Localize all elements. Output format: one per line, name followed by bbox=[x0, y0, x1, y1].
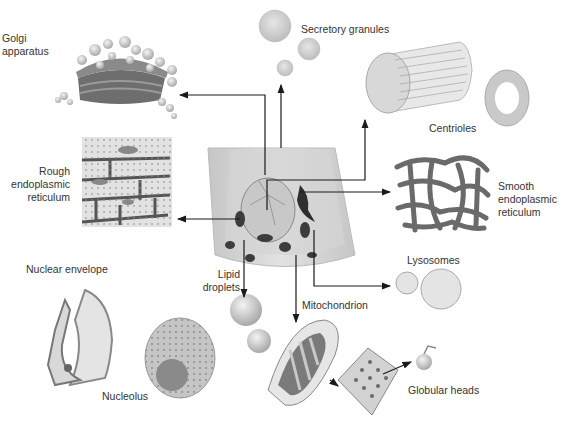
centrioles-label: Centrioles bbox=[429, 122, 476, 135]
centrioles-icon bbox=[366, 42, 529, 126]
rough-er-label: Rough endoplasmic reticulum bbox=[4, 165, 70, 204]
mitochondrion-icon bbox=[268, 320, 338, 405]
cell-organelle-diagram: Golgi apparatus Secretory granules Centr… bbox=[0, 0, 566, 427]
lipid-droplets-icon bbox=[230, 294, 271, 353]
nucleolus-icon bbox=[145, 318, 215, 398]
mitochondrion-label: Mitochondrion bbox=[302, 299, 368, 312]
nuclear-envelope-label: Nuclear envelope bbox=[26, 263, 108, 276]
nucleolus-label: Nucleolus bbox=[102, 390, 148, 403]
smooth-er-icon bbox=[397, 158, 488, 230]
golgi-apparatus-label: Golgi apparatus bbox=[2, 32, 60, 58]
cristae-fragment-icon bbox=[338, 348, 398, 415]
nuclear-envelope-icon bbox=[48, 290, 112, 385]
lysosomes-icon bbox=[396, 269, 461, 309]
secretory-granules-icon bbox=[259, 10, 320, 76]
globular-heads-label: Globular heads bbox=[408, 384, 479, 397]
smooth-er-label: Smooth endoplasmic reticulum bbox=[498, 180, 557, 219]
cell-body-icon bbox=[208, 148, 355, 267]
diagram-graphics bbox=[0, 0, 566, 427]
golgi-apparatus-icon bbox=[55, 36, 177, 119]
rough-er-icon bbox=[82, 137, 172, 227]
lysosomes-label: Lysosomes bbox=[407, 254, 460, 267]
globular-head-icon bbox=[416, 346, 436, 370]
lipid-droplets-label: Lipid droplets bbox=[198, 268, 240, 294]
secretory-granules-label: Secretory granules bbox=[301, 23, 389, 36]
